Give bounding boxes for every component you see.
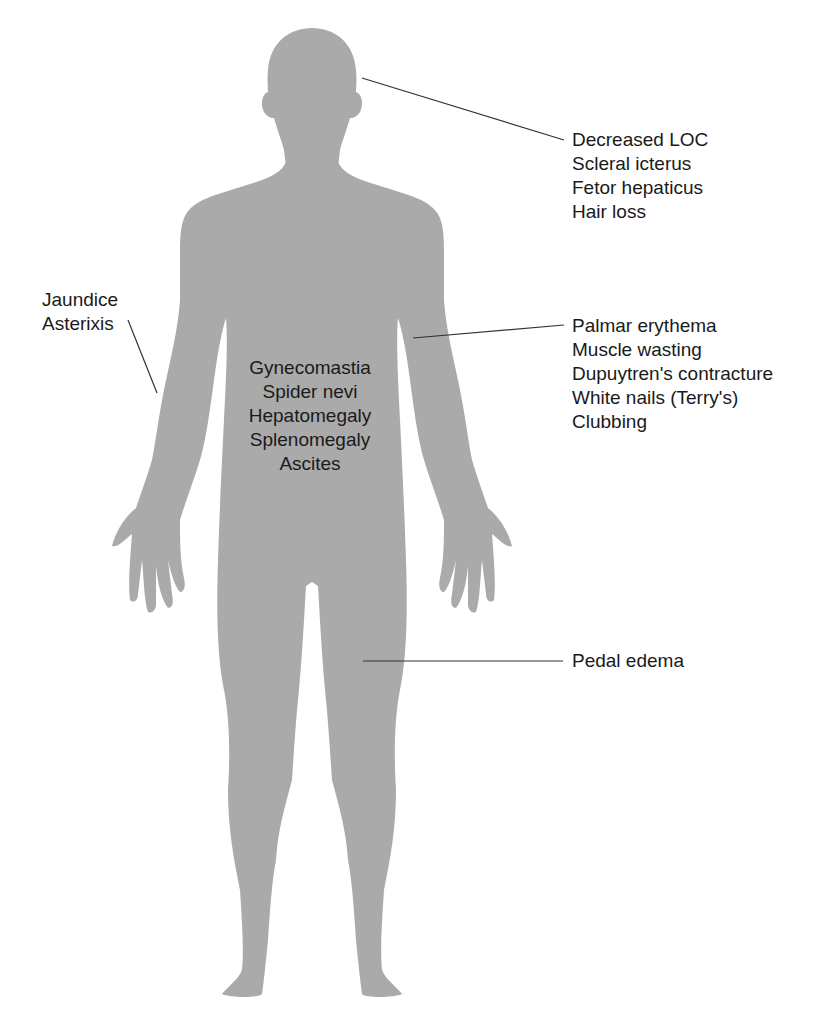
- human-silhouette: [112, 28, 512, 997]
- symptom-gynecomastia: Gynecomastia: [230, 356, 390, 380]
- symptom-white-nails: White nails (Terry's): [572, 386, 773, 410]
- symptom-palmar-erythema: Palmar erythema: [572, 314, 773, 338]
- symptom-splenomegaly: Splenomegaly: [230, 428, 390, 452]
- symptom-jaundice: Jaundice: [42, 288, 118, 312]
- right-arm-symptoms-label: Palmar erythema Muscle wasting Dupuytren…: [572, 314, 773, 434]
- torso-shape: [112, 162, 512, 997]
- symptom-muscle-wasting: Muscle wasting: [572, 338, 773, 362]
- symptom-spider-nevi: Spider nevi: [230, 380, 390, 404]
- head-symptoms-label: Decreased LOC Scleral icterus Fetor hepa…: [572, 128, 708, 224]
- left-arm-symptoms-label: Jaundice Asterixis: [42, 288, 118, 336]
- head-shape: [262, 28, 362, 168]
- torso-symptoms-label: Gynecomastia Spider nevi Hepatomegaly Sp…: [230, 356, 390, 476]
- symptom-clubbing: Clubbing: [572, 410, 773, 434]
- symptom-asterixis: Asterixis: [42, 312, 118, 336]
- leader-line-head: [362, 78, 564, 140]
- symptom-ascites: Ascites: [230, 452, 390, 476]
- leg-symptoms-label: Pedal edema: [572, 649, 684, 673]
- symptom-pedal-edema: Pedal edema: [572, 649, 684, 673]
- symptom-fetor-hepaticus: Fetor hepaticus: [572, 176, 708, 200]
- symptom-decreased-loc: Decreased LOC: [572, 128, 708, 152]
- leader-line-left-arm: [128, 320, 157, 393]
- symptom-scleral-icterus: Scleral icterus: [572, 152, 708, 176]
- symptom-dupuytrens-contracture: Dupuytren's contracture: [572, 362, 773, 386]
- symptom-hair-loss: Hair loss: [572, 200, 708, 224]
- symptom-hepatomegaly: Hepatomegaly: [230, 404, 390, 428]
